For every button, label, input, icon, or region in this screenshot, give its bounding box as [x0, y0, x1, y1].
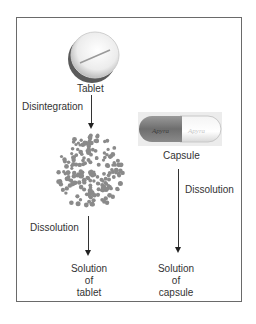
- dissolution-tablet-arrowhead: [85, 250, 91, 256]
- dissolution-capsule-arrowhead: [175, 247, 181, 253]
- tablet-label: Tablet: [77, 83, 104, 95]
- capsule-label: Capsule: [163, 150, 200, 162]
- capsule-icon: Apyra Apyra: [138, 112, 222, 146]
- result-line: capsule: [151, 287, 201, 299]
- solution-of-tablet-label: Solution of tablet: [66, 263, 112, 299]
- solution-of-capsule-label: Solution of capsule: [151, 263, 201, 299]
- disintegration-arrowhead: [88, 123, 94, 129]
- diagram-frame: [16, 17, 242, 302]
- granules-cluster: [54, 132, 126, 214]
- disintegration-label: Disintegration: [22, 101, 83, 113]
- dissolution-tablet-arrow-line: [88, 216, 89, 250]
- result-line: tablet: [66, 287, 112, 299]
- result-line: of: [66, 275, 112, 287]
- dissolution-tablet-label: Dissolution: [30, 222, 79, 234]
- svg-text:Apyra: Apyra: [151, 127, 170, 135]
- dissolution-capsule-label: Dissolution: [185, 184, 234, 196]
- result-line: Solution: [66, 263, 112, 275]
- result-line: of: [151, 275, 201, 287]
- tablet-pill-icon: [66, 28, 122, 84]
- dissolution-capsule-arrow-line: [178, 169, 179, 248]
- result-line: Solution: [151, 263, 201, 275]
- svg-text:Apyra: Apyra: [187, 127, 206, 135]
- disintegration-arrow-line: [91, 95, 92, 123]
